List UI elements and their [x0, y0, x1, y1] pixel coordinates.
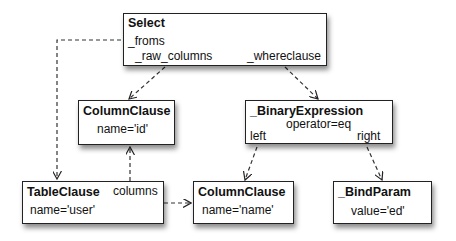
field-whereclause: _whereclause — [247, 49, 321, 63]
field-value: value='ed' — [351, 204, 405, 218]
node-select: Select _froms _raw_columns _whereclause — [123, 13, 327, 66]
node-bindparam: _BindParam value='ed' — [333, 181, 432, 224]
node-tableclause: TableClause columns name='user' — [22, 181, 164, 224]
field-raw-columns: _raw_columns — [135, 49, 212, 63]
node-title: _BinaryExpression — [250, 104, 363, 118]
field-name: name='id' — [97, 122, 148, 136]
field-left: left — [250, 129, 266, 143]
field-columns: columns — [113, 184, 158, 198]
node-title: ColumnClause — [83, 104, 171, 118]
edge-left-columnclause-name — [245, 147, 257, 180]
edge-rawcolumns-columnclause — [129, 67, 165, 99]
edge-right-bindparam — [367, 147, 382, 180]
field-name: name='name' — [202, 203, 274, 217]
node-columnclause-name: ColumnClause name='name' — [193, 181, 294, 224]
field-operator: operator=eq — [286, 117, 351, 131]
node-binaryexpression: _BinaryExpression operator=eq left right — [245, 100, 393, 144]
node-title: Select — [128, 16, 165, 30]
node-title: ColumnClause — [198, 185, 286, 199]
field-name: name='user' — [30, 203, 95, 217]
node-title: TableClause — [27, 185, 100, 199]
node-columnclause-id: ColumnClause name='id' — [78, 100, 175, 145]
field-right: right — [357, 129, 380, 143]
edge-whereclause-binaryexpression — [285, 67, 318, 99]
node-title: _BindParam — [338, 185, 411, 199]
field-froms: _froms — [128, 34, 165, 48]
